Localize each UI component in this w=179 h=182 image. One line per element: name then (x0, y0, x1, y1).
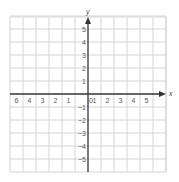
x-tick-label: 3 (41, 97, 45, 104)
y-tick-label: −4 (78, 143, 86, 150)
coordinate-plane: xy6432112345054321−1−2−3−4−5 (0, 0, 179, 182)
x-tick-label: 1 (93, 97, 97, 104)
y-tick-label: −3 (78, 130, 86, 137)
tick-labels: xy6432112345054321−1−2−3−4−5 (15, 8, 174, 163)
y-tick-label: 5 (82, 26, 86, 33)
y-axis-arrow-icon (85, 17, 91, 24)
x-tick-label: 3 (119, 97, 123, 104)
x-tick-label: 6 (15, 97, 19, 104)
y-axis-label: y (85, 8, 90, 16)
y-tick-label: 2 (82, 65, 86, 72)
x-tick-label: 4 (28, 97, 32, 104)
x-tick-label: 1 (67, 97, 71, 104)
origin-label: 0 (89, 97, 93, 104)
y-tick-label: −5 (78, 156, 86, 163)
x-tick-label: 4 (132, 97, 136, 104)
x-axis-arrow-icon (159, 91, 166, 97)
x-tick-label: 2 (54, 97, 58, 104)
y-tick-label: 1 (82, 78, 86, 85)
x-axis-label: x (168, 90, 173, 97)
y-tick-label: −2 (78, 117, 86, 124)
y-tick-label: −1 (78, 104, 86, 111)
x-tick-label: 5 (145, 97, 149, 104)
x-tick-label: 2 (106, 97, 110, 104)
axes (10, 17, 166, 172)
y-tick-label: 4 (82, 39, 86, 46)
y-tick-label: 3 (82, 52, 86, 59)
